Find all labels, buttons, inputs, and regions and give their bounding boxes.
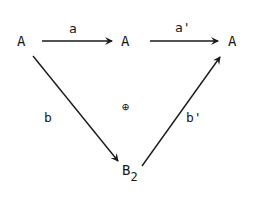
label-a-prime: a' bbox=[175, 21, 191, 34]
arrow-b-prime bbox=[142, 57, 220, 166]
label-b: b bbox=[44, 111, 52, 124]
node-b-subscript: 2 bbox=[130, 170, 137, 184]
node-left-a: A bbox=[17, 34, 25, 48]
node-middle-a: A bbox=[121, 34, 129, 48]
label-a: a bbox=[69, 22, 77, 35]
arrow-b bbox=[33, 56, 118, 161]
node-b2: B2 bbox=[122, 163, 138, 177]
node-right-a: A bbox=[228, 34, 236, 48]
label-b-prime: b' bbox=[186, 111, 202, 124]
commutative-diagram: A A A B2 a a' b b' ⊕ bbox=[0, 0, 253, 199]
direct-sum-symbol: ⊕ bbox=[122, 101, 129, 113]
